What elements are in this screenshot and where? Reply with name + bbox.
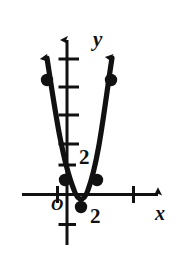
point-right-upper (105, 74, 117, 86)
x-tick-label-two: 2 (90, 206, 101, 227)
origin-label: O (51, 196, 63, 213)
y-axis-label: y (93, 29, 102, 50)
point-left-root (59, 174, 71, 186)
point-right-root (91, 174, 103, 186)
point-left-upper (41, 74, 53, 86)
y-tick-label-two: 2 (79, 147, 90, 168)
parabola-figure: y x O 2 2 (0, 0, 180, 269)
point-vertex (75, 201, 87, 213)
x-axis-label: x (155, 203, 165, 223)
coordinate-plane-svg (0, 0, 180, 269)
